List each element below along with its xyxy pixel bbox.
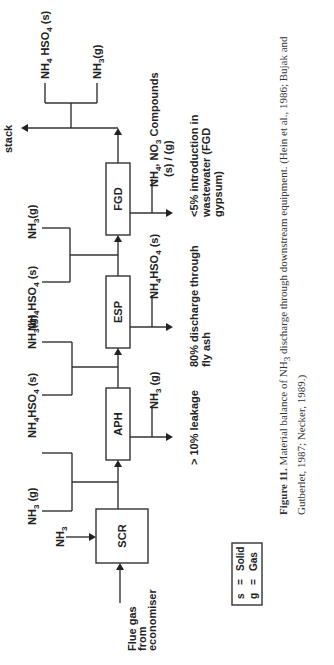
stack-riser: NH4 HSO4 (s) NH3(g) [21, 10, 118, 132]
figure-caption: Figure 11. Material balance of NH3 disch… [276, 35, 308, 515]
stack-label: stack [2, 124, 14, 153]
aph-label: APH [112, 412, 124, 435]
svg-text:g: g [248, 593, 259, 599]
svg-text:Gas: Gas [248, 552, 259, 571]
caption-sub: 3 [282, 357, 292, 362]
fgd-outlet-label-1: NH4, NO3 Compounds [148, 72, 163, 187]
stack-nh4hso4-label: NH4 HSO4 (s) [39, 10, 54, 79]
nh4hso4-label-1: NH4HSO4 (s) [26, 373, 41, 438]
esp-outlet-label: NH4HSO4 (s) [148, 234, 163, 299]
esp-note-2: fly ash [200, 332, 212, 367]
aph-note: > 10% leakage [188, 390, 200, 465]
fgd-outlet-label-2: (s) / (g) [162, 140, 174, 177]
svg-text:=: = [235, 579, 246, 585]
esp-fgd-stream: NH4HSO4 (s) NH3(g) [26, 204, 118, 331]
aph-outlet: NH3 (g) [130, 371, 173, 441]
nh3-label-3: NH3(g) [26, 204, 41, 239]
rotated-page: Flue gas from economiser NH3 SCR NH3 (g)… [0, 0, 334, 665]
flue-gas-label-3: economiser [146, 589, 158, 651]
fgd-note-3: gypsum) [212, 171, 224, 217]
esp-outlet: NH4HSO4 (s) [130, 234, 173, 331]
svg-text:s: s [235, 593, 246, 599]
stack-nh3-label: NH3(g) [91, 44, 106, 79]
aph-esp-stream: NH4HSO4 (s) NH3(g) [26, 314, 118, 438]
fgd-note-2: wastewater (FGD [200, 128, 212, 218]
esp-note-1: 80% discharge through [188, 245, 200, 367]
svg-text:=: = [248, 579, 259, 585]
nh3-injection: NH3 [54, 526, 96, 547]
esp-label: ESP [112, 301, 124, 323]
figure-label: Figure 11. [277, 468, 289, 515]
caption-text-a: Material balance of NH [277, 361, 289, 468]
flue-gas-inlet: Flue gas from economiser [116, 563, 158, 651]
svg-text:Solid: Solid [235, 547, 246, 571]
fgd-note-1: <5% introduction in [188, 114, 200, 217]
aph-outlet-label: NH3 (g) [148, 371, 163, 409]
scr-label: SCR [116, 524, 128, 547]
fgd-label: FGD [112, 187, 124, 210]
nh4hso4-label-2: NH4HSO4 (s) [26, 266, 41, 331]
fgd-outlet: NH4, NO3 Compounds (s) / (g) [130, 72, 174, 217]
legend: s = Solid g = Gas [232, 543, 262, 605]
nh3-gas-label: NH3 (g) [26, 487, 41, 525]
